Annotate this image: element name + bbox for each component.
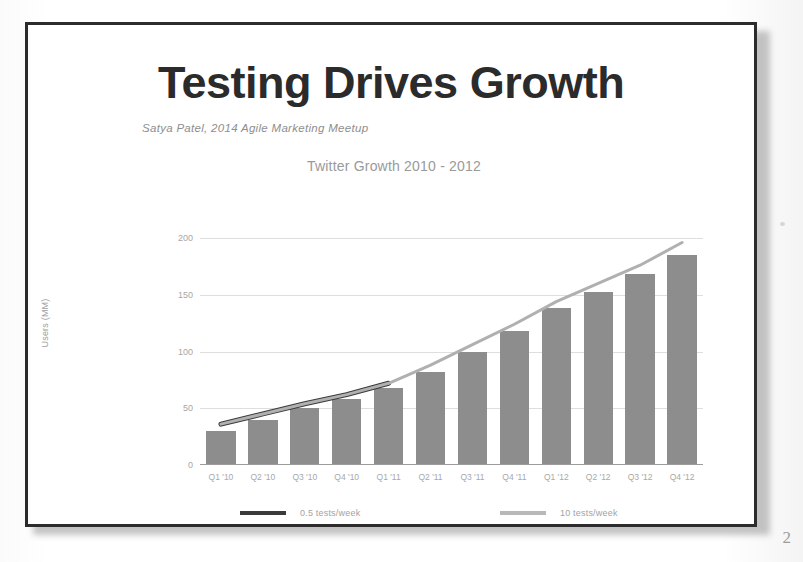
chart-title: Twitter Growth 2010 - 2012 bbox=[28, 158, 757, 174]
y-axis-tick-label: 0 bbox=[188, 460, 193, 470]
legend-item: 0.5 tests/week bbox=[240, 508, 360, 518]
x-axis-tick-label: Q2 '12 bbox=[586, 472, 611, 482]
x-axis-tick-label: Q4 '11 bbox=[502, 472, 526, 482]
x-axis-line bbox=[200, 464, 703, 465]
x-axis-tick-label: Q2 '11 bbox=[418, 472, 442, 482]
plot-area: 050100150200 bbox=[200, 238, 703, 465]
x-axis-tick-label: Q3 '11 bbox=[460, 472, 484, 482]
x-axis-tick-label: Q4 '10 bbox=[334, 472, 359, 482]
y-axis-tick-label: 200 bbox=[178, 233, 193, 243]
y-axis-tick-label: 50 bbox=[183, 403, 193, 413]
y-axis-tick-label: 150 bbox=[178, 290, 193, 300]
page-title: Testing Drives Growth bbox=[28, 57, 754, 109]
trend-line bbox=[221, 243, 682, 425]
presentation-slide: Testing Drives Growth Satya Patel, 2014 … bbox=[25, 22, 757, 527]
x-axis-tick-label: Q1 '12 bbox=[544, 472, 569, 482]
x-axis-tick-label: Q1 '11 bbox=[377, 472, 401, 482]
bar-chart: Twitter Growth 2010 - 2012 Users (MM) 05… bbox=[28, 150, 757, 527]
page-number-mark: 2 bbox=[783, 528, 792, 548]
trend-lines bbox=[200, 238, 703, 465]
legend-label: 0.5 tests/week bbox=[300, 508, 360, 518]
x-axis-tick-label: Q1 '10 bbox=[209, 472, 234, 482]
photo-background: Testing Drives Growth Satya Patel, 2014 … bbox=[0, 0, 803, 562]
chart-legend: 0.5 tests/week10 tests/week bbox=[200, 508, 703, 527]
y-axis-tick-label: 100 bbox=[178, 347, 193, 357]
slide-subtitle: Satya Patel, 2014 Agile Marketing Meetup bbox=[142, 122, 368, 134]
x-axis-tick-label: Q3 '12 bbox=[628, 472, 653, 482]
x-axis-tick-label: Q2 '10 bbox=[250, 472, 275, 482]
legend-swatch bbox=[240, 511, 286, 515]
legend-swatch bbox=[500, 511, 546, 515]
x-axis-labels: Q1 '10Q2 '10Q3 '10Q4 '10Q1 '11Q2 '11Q3 '… bbox=[200, 472, 703, 490]
y-axis-label: Users (MM) bbox=[40, 278, 50, 368]
x-axis-tick-label: Q3 '10 bbox=[292, 472, 317, 482]
x-axis-tick-label: Q4 '12 bbox=[670, 472, 695, 482]
scan-speck bbox=[780, 222, 785, 226]
legend-label: 10 tests/week bbox=[560, 508, 618, 518]
legend-item: 10 tests/week bbox=[500, 508, 618, 518]
